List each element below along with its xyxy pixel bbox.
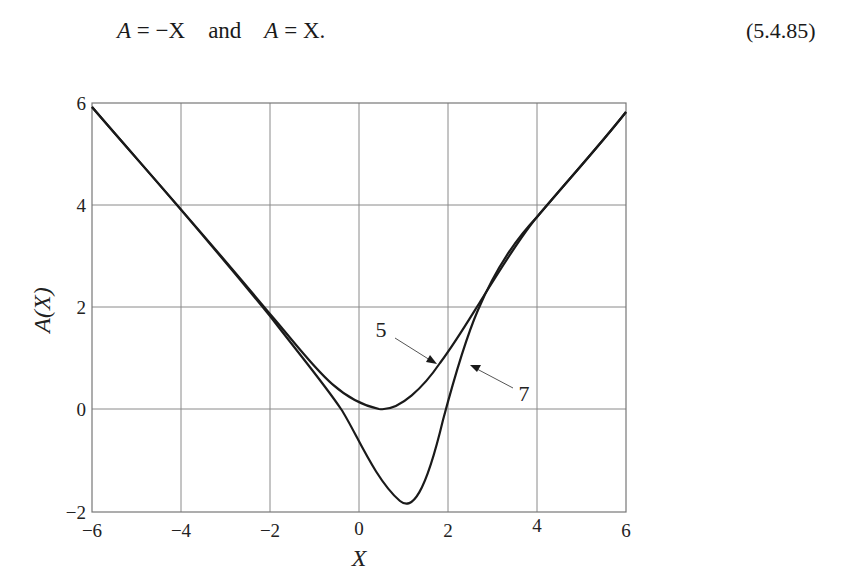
curve-5-label: 5 [376,317,387,342]
x-tick-labels: −6 −4 −2 0 2 4 6 [82,515,631,541]
arrow-5-head-icon [426,355,437,364]
x-tick: 4 [532,515,542,536]
x-tick: −6 [82,520,102,541]
x-tick: 6 [621,520,631,541]
y-tick: 4 [77,195,87,216]
annotation-5: 5 [376,317,438,364]
arrow-7-head-icon [470,365,481,372]
x-tick: 2 [443,520,453,541]
annotation-7: 7 [470,365,530,406]
y-axis-label: A(X) [29,287,55,334]
y-tick: 0 [77,399,87,420]
arrow-7-line [477,369,513,388]
curve-7-label: 7 [519,381,530,406]
x-tick: 0 [354,518,364,539]
y-tick: −2 [66,502,86,523]
chart: −6 −4 −2 0 2 4 6 −2 0 2 4 6 X A(X) 5 7 [0,0,848,572]
x-axis-label: X [351,545,368,571]
x-tick: −4 [171,520,192,541]
y-tick: 6 [77,93,87,114]
y-tick-labels: −2 0 2 4 6 [66,93,87,523]
y-tick: 2 [77,297,87,318]
grid [92,103,626,512]
arrow-5-line [395,338,430,360]
x-tick: −2 [260,520,280,541]
